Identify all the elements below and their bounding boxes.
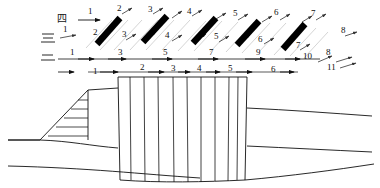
row-3-label-8: 8 bbox=[341, 25, 346, 35]
row-3-label-7: 7 bbox=[296, 40, 301, 50]
row-3-label-5: 5 bbox=[214, 31, 219, 41]
row-3-label-3: 3 bbox=[122, 29, 127, 39]
row-1-label-3: 3 bbox=[171, 63, 176, 73]
cross-section-diagram: 四 1 2 3 4 5 6 7 bbox=[0, 0, 380, 188]
row-2-label-8: 8 bbox=[326, 47, 331, 57]
row-3-label-1: 1 bbox=[63, 24, 68, 34]
row-2-label-7: 7 bbox=[209, 47, 214, 57]
row-3-label-2: 2 bbox=[93, 27, 98, 37]
row-1-label-6: 6 bbox=[271, 64, 276, 74]
row-2-label-9: 9 bbox=[256, 47, 261, 57]
row-4-label-7: 7 bbox=[311, 8, 316, 18]
row-4-label-6: 6 bbox=[274, 7, 279, 17]
row-1-label-5: 5 bbox=[228, 63, 233, 73]
row-2-label-5: 5 bbox=[163, 47, 168, 57]
row-3-label-6: 6 bbox=[258, 34, 263, 44]
row-1-label-2: 2 bbox=[140, 62, 145, 72]
row-2-label-11: 11 bbox=[327, 62, 336, 72]
row-4-cjk-label: 四 bbox=[57, 13, 67, 24]
row-4-label-4: 4 bbox=[187, 6, 192, 16]
row-2-label-10: 10 bbox=[303, 51, 313, 61]
row-4-label-1: 1 bbox=[88, 6, 93, 16]
row-2-label-1: 1 bbox=[70, 47, 75, 57]
row-3-label-4: 4 bbox=[165, 30, 170, 40]
figure-canvas: 四 1 2 3 4 5 6 7 bbox=[0, 0, 380, 188]
row-4-label-2: 2 bbox=[117, 3, 122, 13]
row-1-label-4: 4 bbox=[197, 63, 202, 73]
row-4-label-5: 5 bbox=[233, 8, 238, 18]
canvas-background bbox=[0, 0, 380, 188]
row-4-label-3: 3 bbox=[148, 4, 153, 14]
row-1-label-1: 1 bbox=[93, 66, 98, 76]
row-2-label-3: 3 bbox=[118, 47, 123, 57]
